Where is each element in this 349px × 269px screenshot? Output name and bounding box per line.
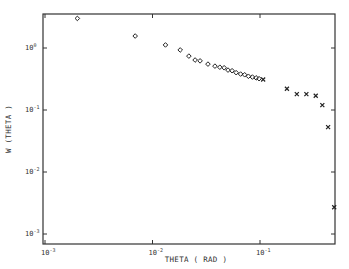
diamond-marker: [133, 34, 138, 39]
log-log-scatter-chart: 10-310-210-110010-110-210-3 THETA ( RAD …: [0, 0, 349, 269]
data-points: [75, 16, 336, 209]
x-tick-label: 10-1: [256, 247, 270, 257]
x-tick-label: 10-2: [149, 247, 163, 257]
diamond-marker: [178, 48, 183, 53]
axis-ticks: [43, 14, 335, 244]
diamond-marker: [206, 62, 211, 67]
diamond-marker: [238, 72, 243, 77]
diamond-marker: [218, 65, 223, 70]
diamond-marker: [75, 16, 80, 21]
cross-marker: [326, 125, 330, 129]
x-tick-label: 10-3: [41, 247, 55, 257]
axis-tick-labels: 10-310-210-110010-110-210-3: [25, 42, 270, 257]
diamond-marker: [198, 59, 203, 64]
plot-frame: [43, 14, 335, 244]
y-axis-title: W (THETA ): [4, 105, 13, 153]
cross-marker: [261, 78, 265, 82]
x-axis-title: THETA ( RAD ): [165, 255, 228, 264]
cross-marker: [285, 87, 289, 91]
diamond-marker: [193, 58, 198, 63]
y-tick-label: 100: [25, 42, 36, 52]
cross-marker: [314, 94, 318, 98]
y-tick-label: 10-3: [25, 228, 39, 238]
diamond-marker: [213, 64, 218, 69]
cross-marker: [304, 92, 308, 96]
y-tick-label: 10-1: [25, 104, 39, 114]
y-tick-label: 10-2: [25, 166, 39, 176]
diamond-marker: [187, 54, 192, 59]
cross-marker: [320, 103, 324, 107]
cross-marker: [295, 92, 299, 96]
diamond-marker: [163, 43, 168, 48]
